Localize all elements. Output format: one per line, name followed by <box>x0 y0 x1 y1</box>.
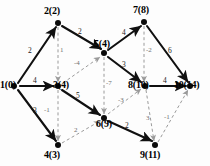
dashed-edge-weight-5-6: -7 <box>106 80 112 87</box>
solid-edge-6-to-9 <box>108 121 152 141</box>
dashed-edge-weight-2-3: 1 <box>60 47 64 54</box>
solid-edge-weight-6-9: 2 <box>125 122 129 130</box>
dashed-edge-weight-6-8: -3 <box>118 97 124 104</box>
graph-diagram: 1(0)2(2)3(4)4(3)5(4)6(9)7(8)8(10)9(11)10… <box>0 0 210 166</box>
node-label-7: 7(8) <box>133 5 149 15</box>
dashed-edge-4-to-6 <box>62 121 100 143</box>
solid-edge-1-to-2 <box>18 27 56 83</box>
solid-edge-weight-3-6: 5 <box>76 92 80 100</box>
solid-edge-weight-5-7: 4 <box>122 29 126 37</box>
dashed-edge-weight-4-6: 2 <box>74 127 78 134</box>
solid-edge-weight-1-2: 2 <box>28 47 32 55</box>
dashed-edge-6-to-8 <box>108 89 141 114</box>
solid-edge-1-to-4 <box>18 90 56 141</box>
node-label-9: 9(11) <box>140 150 160 160</box>
dashed-edge-weight-7-8: -2 <box>146 47 152 54</box>
node-4 <box>55 142 61 148</box>
node-label-1: 1(0) <box>0 80 16 90</box>
solid-edge-weight-2-5: 2 <box>78 28 82 36</box>
solid-edge-weight-1-3: 4 <box>33 77 37 85</box>
node-label-6: 6(9) <box>96 119 112 129</box>
node-5 <box>101 50 107 56</box>
dashed-edge-weight-3-4: -1 <box>44 107 50 114</box>
node-label-3: 3(4) <box>53 80 69 90</box>
dashed-edge-weight-3-5: -4 <box>74 60 80 67</box>
dashed-edge-9-to-10 <box>158 90 188 142</box>
node-label-2: 2(2) <box>44 6 60 16</box>
solid-edge-weight-8-10: 4 <box>163 77 167 85</box>
node-label-10: 10(14) <box>174 80 199 90</box>
dashed-edge-weight-8-9: 3 <box>146 115 150 122</box>
node-label-4: 4(3) <box>44 150 60 160</box>
node-label-8: 8(10) <box>128 80 149 90</box>
solid-edge-3-to-6 <box>62 90 100 115</box>
node-9 <box>152 142 158 148</box>
node-2 <box>55 20 61 26</box>
dashed-edge-weight-9-10: -1 <box>164 114 170 121</box>
node-label-5: 5(4) <box>94 39 110 49</box>
solid-edge-weight-1-4: 3 <box>33 107 37 115</box>
solid-edge-weight-7-10: 6 <box>168 47 172 55</box>
node-7 <box>141 19 147 25</box>
solid-edge-weight-5-8: 3 <box>122 61 126 69</box>
